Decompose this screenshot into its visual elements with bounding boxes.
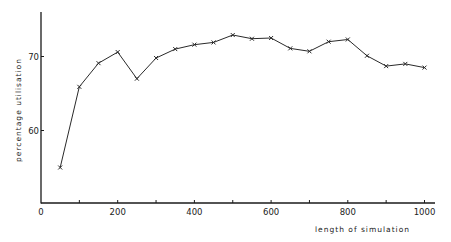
data-line: [60, 35, 424, 168]
x-tick-label: 800: [340, 207, 356, 217]
x-tick-label: 200: [110, 207, 126, 217]
x-axis-label: length of simulation: [315, 225, 410, 234]
axes: [41, 12, 435, 204]
x-tick-label: 600: [263, 207, 279, 217]
data-series: [58, 33, 426, 169]
x-marker-icon: [135, 77, 139, 81]
y-tick-label: 70: [28, 52, 39, 62]
line-chart: 020040060080010006070 length of simulati…: [0, 0, 451, 242]
x-marker-icon: [154, 56, 158, 60]
x-marker-icon: [116, 50, 120, 54]
x-tick-label: 0: [38, 207, 43, 217]
ticks: 020040060080010006070: [28, 52, 435, 218]
x-tick-label: 400: [186, 207, 202, 217]
y-axis-label: percentage utilisation: [14, 58, 23, 162]
x-marker-icon: [365, 54, 369, 58]
x-marker-icon: [97, 61, 101, 65]
x-tick-label: 1000: [414, 207, 436, 217]
y-tick-label: 60: [28, 126, 39, 136]
